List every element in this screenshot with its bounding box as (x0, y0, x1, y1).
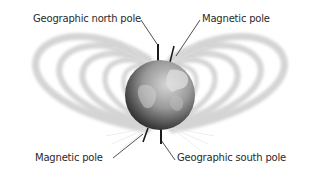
label-geographic-north-pole: Geographic north pole (33, 13, 141, 24)
leader-gnp (141, 20, 157, 44)
label-magnetic-pole-top: Magnetic pole (202, 13, 270, 24)
magnetic-field-diagram: Geographic north pole Magnetic pole Magn… (0, 0, 316, 182)
leader-mp-bot (113, 134, 143, 158)
leader-gsp (161, 140, 175, 160)
label-geographic-south-pole: Geographic south pole (177, 152, 286, 163)
label-magnetic-pole-bottom: Magnetic pole (35, 152, 103, 163)
earth-globe (125, 60, 195, 130)
